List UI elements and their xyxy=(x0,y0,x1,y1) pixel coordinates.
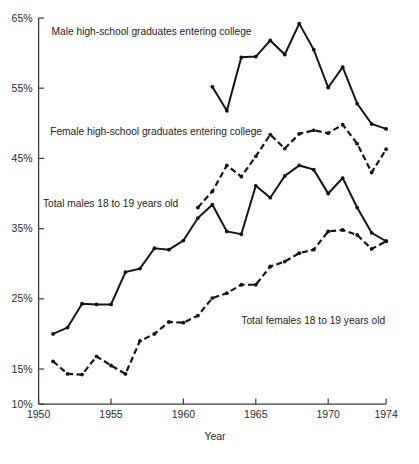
data-point xyxy=(80,373,84,377)
data-point xyxy=(66,326,70,330)
series-annotation-1: Male high-school graduates entering coll… xyxy=(52,26,252,37)
data-point xyxy=(95,354,99,358)
data-point xyxy=(370,122,374,126)
data-point xyxy=(312,48,316,52)
data-point xyxy=(283,174,287,178)
data-point xyxy=(210,296,214,300)
data-point xyxy=(268,39,272,43)
data-point xyxy=(182,321,186,325)
data-point xyxy=(268,265,272,269)
data-point xyxy=(297,164,301,168)
data-point xyxy=(254,184,258,188)
data-point xyxy=(326,86,330,90)
data-point xyxy=(384,147,388,151)
data-point xyxy=(153,332,157,336)
data-point xyxy=(355,233,359,237)
data-point xyxy=(210,189,214,193)
series-line-3 xyxy=(53,165,386,333)
data-point xyxy=(341,176,345,180)
series-annotation-4: Total females 18 to 19 years old xyxy=(241,315,385,326)
data-point xyxy=(355,206,359,210)
data-point xyxy=(326,230,330,234)
data-point xyxy=(268,196,272,200)
data-point xyxy=(384,127,388,131)
data-point xyxy=(225,230,229,234)
data-point xyxy=(312,248,316,252)
series-line-1 xyxy=(212,24,386,129)
y-tick-label: 45% xyxy=(12,152,33,164)
data-point xyxy=(370,247,374,251)
x-tick-label: 1950 xyxy=(27,408,51,420)
data-point xyxy=(312,168,316,172)
data-point xyxy=(312,128,316,132)
data-point xyxy=(254,154,258,158)
data-point xyxy=(225,109,229,113)
data-point xyxy=(138,267,142,271)
data-point xyxy=(283,260,287,264)
data-point xyxy=(124,372,128,376)
data-point xyxy=(326,192,330,196)
data-point xyxy=(167,248,171,252)
data-point xyxy=(196,314,200,318)
data-point xyxy=(297,132,301,136)
data-point xyxy=(225,164,229,168)
data-point xyxy=(254,283,258,287)
series-line-4 xyxy=(53,230,386,375)
data-point xyxy=(254,55,258,59)
chart-container: 10%15%25%35%45%55%65%1950195519601965197… xyxy=(0,0,419,464)
data-point xyxy=(297,251,301,255)
series-annotation-3: Total males 18 to 19 years old xyxy=(43,198,179,209)
data-point xyxy=(239,283,243,287)
data-point xyxy=(80,302,84,306)
data-point xyxy=(341,65,345,69)
data-point xyxy=(51,359,55,363)
chart-tick-labels: 10%15%25%35%45%55%65%1950195519601965197… xyxy=(12,12,398,421)
data-point xyxy=(355,102,359,106)
y-tick-label: 35% xyxy=(12,222,33,234)
data-point xyxy=(138,339,142,343)
data-point xyxy=(239,55,243,59)
data-point xyxy=(297,22,301,26)
data-point xyxy=(124,270,128,274)
chart-annotations: Male high-school graduates entering coll… xyxy=(43,26,386,326)
data-point xyxy=(153,246,157,250)
data-point xyxy=(283,53,287,57)
data-point xyxy=(326,131,330,135)
x-tick-label: 1965 xyxy=(244,408,268,420)
x-tick-label: 1960 xyxy=(172,408,196,420)
data-point xyxy=(384,239,388,243)
x-tick-label: 1970 xyxy=(317,408,341,420)
y-tick-label: 25% xyxy=(12,292,33,304)
data-point xyxy=(283,147,287,151)
y-tick-label: 15% xyxy=(12,363,33,375)
data-point xyxy=(196,206,200,210)
data-point xyxy=(210,203,214,207)
data-point xyxy=(239,232,243,236)
data-point xyxy=(268,133,272,137)
data-point xyxy=(239,175,243,179)
data-point xyxy=(95,303,99,307)
data-point xyxy=(196,216,200,220)
data-point xyxy=(109,303,113,307)
data-point xyxy=(341,228,345,232)
y-tick-label: 65% xyxy=(12,12,33,24)
data-point xyxy=(182,239,186,243)
data-point xyxy=(210,85,214,89)
data-point xyxy=(51,332,55,336)
data-point xyxy=(370,231,374,235)
data-point xyxy=(370,171,374,175)
data-point xyxy=(167,320,171,324)
y-tick-label: 55% xyxy=(12,82,33,94)
data-point xyxy=(341,123,345,127)
data-point xyxy=(225,291,229,295)
x-tick-label: 1974 xyxy=(374,408,398,420)
x-axis-title: Year xyxy=(204,430,226,442)
series-annotation-2: Female high-school graduates entering co… xyxy=(50,126,262,137)
data-point xyxy=(109,364,113,368)
data-point xyxy=(66,372,70,376)
data-point xyxy=(355,142,359,146)
chart-axes xyxy=(39,18,387,404)
line-chart: 10%15%25%35%45%55%65%1950195519601965197… xyxy=(0,0,419,464)
x-tick-label: 1955 xyxy=(99,408,123,420)
